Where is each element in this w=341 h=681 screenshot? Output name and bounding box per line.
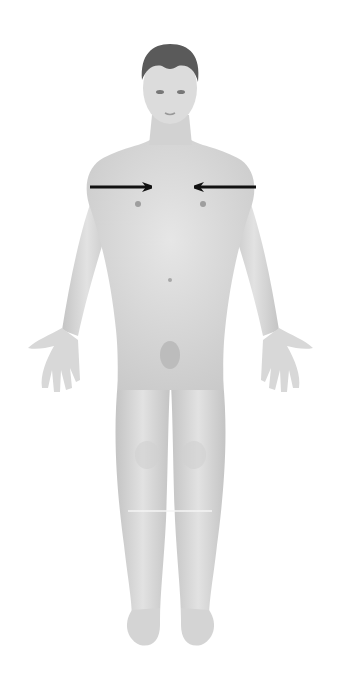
head: [142, 44, 199, 124]
feet: [127, 608, 214, 646]
legs: [116, 380, 226, 620]
anatomical-figure: [0, 0, 341, 681]
torso: [87, 140, 255, 390]
